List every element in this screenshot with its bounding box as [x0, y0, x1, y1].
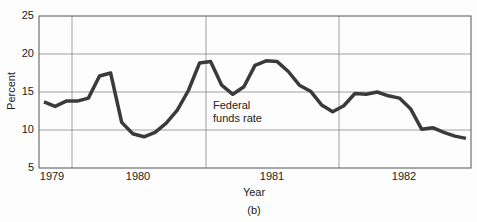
figure-caption: (b): [247, 204, 260, 216]
y-tick-20: 20: [18, 47, 34, 59]
annotation-federal: Federal: [213, 99, 250, 111]
x-tick-1980: 1980: [126, 170, 150, 182]
federal-funds-rate-line: [44, 61, 466, 139]
x-tick-1981: 1981: [260, 170, 284, 182]
annotation-funds-rate: funds rate: [213, 112, 262, 124]
y-axis-label: Percent: [5, 72, 17, 110]
x-tick-1979: 1979: [40, 170, 64, 182]
y-tick-10: 10: [18, 123, 34, 135]
y-tick-5: 5: [18, 161, 34, 173]
y-tick-15: 15: [18, 85, 34, 97]
gridlines: [39, 16, 471, 168]
y-tick-25: 25: [18, 9, 34, 21]
x-axis-label: Year: [243, 186, 265, 198]
chart-canvas: [0, 0, 477, 222]
x-tick-1982: 1982: [392, 170, 416, 182]
